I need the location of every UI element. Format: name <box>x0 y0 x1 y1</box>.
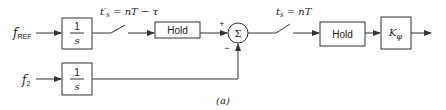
hold-1-block: Hold <box>155 22 200 38</box>
hold-2-block: Hold <box>320 22 365 46</box>
svg-text:Hold: Hold <box>332 29 353 40</box>
svg-text:Hold: Hold <box>167 25 188 36</box>
integrator-2-block: 1 s <box>62 63 92 95</box>
input-f-ref: fREF <box>12 26 31 40</box>
block-diagram: fREF 1 s t′s = nT − τ Hold Σ + − ts = nT… <box>0 0 446 110</box>
figure-caption: (a) <box>216 95 230 106</box>
svg-text:1: 1 <box>74 21 80 32</box>
summing-junction: Σ + − <box>219 19 248 53</box>
sampler-switch-1 <box>111 25 125 33</box>
input-f-2: f2 <box>21 73 30 87</box>
svg-text:s: s <box>74 81 79 92</box>
integrator-1-block: 1 s <box>62 18 92 49</box>
switch-2-label: ts = nT <box>276 6 313 19</box>
svg-text:Σ: Σ <box>234 28 241 39</box>
switch-1-label: t′s = nT − τ <box>100 6 158 19</box>
sampler-switch-2 <box>276 24 290 33</box>
minus-sign: − <box>224 43 229 53</box>
svg-text:1: 1 <box>74 67 80 78</box>
plus-sign: + <box>219 19 224 29</box>
svg-text:s: s <box>74 35 79 46</box>
wire-int2-to-sum <box>92 44 238 79</box>
gain-block: Kφ <box>381 17 411 49</box>
